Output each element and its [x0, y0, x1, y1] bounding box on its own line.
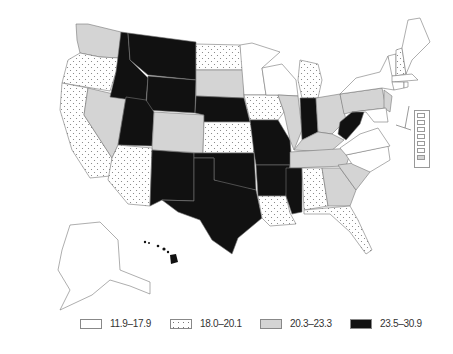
state-KS — [203, 122, 254, 153]
inset-leader-lines — [396, 106, 411, 130]
inset-swatch-white — [417, 141, 425, 146]
legend-item: 11.9–17.9 — [80, 318, 170, 329]
state-FL — [304, 206, 372, 254]
inset-swatch-white — [417, 120, 425, 125]
inset-swatch-white — [417, 127, 425, 132]
state-AZ — [108, 145, 152, 206]
inset-swatch-white — [417, 148, 425, 153]
state-MO — [250, 120, 292, 165]
state-AK — [58, 222, 150, 310]
legend-label: 20.3–23.3 — [290, 318, 332, 329]
state-NY — [340, 56, 396, 94]
legend-item: 18.0–20.1 — [170, 318, 260, 329]
state-WI — [262, 64, 298, 96]
state-IA — [244, 95, 284, 120]
state-SD — [196, 70, 244, 98]
legend-swatch-lightgray — [260, 319, 282, 329]
inset-swatch-lightgray — [417, 155, 425, 160]
state-NM — [150, 150, 194, 206]
inset-swatch-white — [417, 134, 425, 139]
state-WA — [76, 24, 121, 58]
map-legend: 11.9–17.9 18.0–20.1 20.3–23.3 23.5–30.9 — [80, 318, 440, 329]
small-states-inset — [414, 110, 430, 168]
legend-swatch-black — [350, 319, 372, 329]
state-ND — [196, 44, 244, 70]
state-CO — [152, 112, 204, 153]
legend-item: 20.3–23.3 — [260, 318, 350, 329]
state-HI — [144, 241, 178, 264]
state-AR — [256, 165, 290, 196]
legend-label: 11.9–17.9 — [110, 318, 151, 329]
legend-item: 23.5–30.9 — [350, 318, 440, 329]
legend-swatch-white — [80, 319, 102, 329]
inset-swatch-white — [417, 113, 425, 118]
state-MI — [298, 60, 322, 98]
state-CT — [392, 82, 404, 90]
legend-label: 18.0–20.1 — [200, 318, 242, 329]
state-ME — [402, 18, 430, 74]
state-RI — [404, 82, 408, 88]
legend-label: 23.5–30.9 — [380, 318, 422, 329]
legend-swatch-dotted — [170, 319, 192, 329]
us-choropleth-map — [0, 0, 453, 354]
state-WY — [146, 76, 196, 113]
